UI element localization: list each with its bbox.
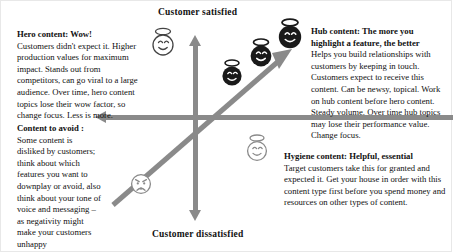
avoid-content-block: Content to avoid : Some content is disli… xyxy=(17,123,101,251)
hub-angel-face-2-icon xyxy=(247,38,275,68)
hygiene-content-body: Target customers take this for granted a… xyxy=(284,163,445,208)
hub-content-heading: Hub content: The more you highlight a fe… xyxy=(311,26,447,49)
hub-angel-face-1-icon xyxy=(219,59,245,87)
hub-content-body: Helps you build relationships with custo… xyxy=(311,49,440,140)
axis-label-bottom: Customer dissatisfied xyxy=(152,229,243,239)
hub-content-block: Hub content: The more you highlight a fe… xyxy=(311,26,447,142)
hygiene-content-block: Hygiene content: Helpful, essential Targ… xyxy=(284,151,452,209)
hero-content-block: Hero content: Wow! Customers didn't expe… xyxy=(17,29,142,122)
hero-angel-face-icon xyxy=(149,27,177,57)
avoid-content-body: Some content is disliked by customers; t… xyxy=(17,135,101,249)
hygiene-content-heading: Hygiene content: Helpful, essential xyxy=(284,151,452,163)
axis-label-top: Customer satisfied xyxy=(158,7,237,17)
avoid-content-heading: Content to avoid : xyxy=(17,123,101,135)
hub-angel-face-3-icon xyxy=(275,18,305,50)
hero-content-heading: Hero content: Wow! xyxy=(17,29,142,41)
hygiene-angel-face-icon xyxy=(244,134,270,162)
down-arrow-icon xyxy=(189,210,201,221)
hero-content-body: Customers didn't expect it. Higher produ… xyxy=(17,41,138,121)
avoid-angry-face-icon xyxy=(129,172,153,196)
